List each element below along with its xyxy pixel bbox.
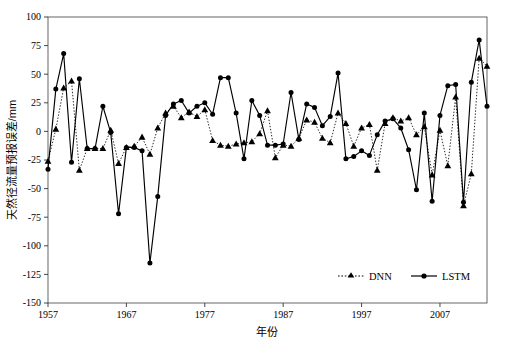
data-point-marker-circle — [320, 123, 325, 128]
y-tick-label: -125 — [23, 269, 41, 280]
data-point-marker-circle — [328, 114, 333, 119]
data-point-marker-circle — [406, 147, 411, 152]
data-point-marker-circle — [289, 90, 294, 95]
y-tick-label: 100 — [26, 11, 41, 22]
data-point-marker-circle — [437, 113, 442, 118]
data-point-marker-circle — [422, 111, 427, 116]
data-point-marker-circle — [383, 119, 388, 124]
data-point-marker-circle — [477, 37, 482, 42]
x-tick-label: 1957 — [38, 309, 58, 320]
data-point-marker-circle — [398, 125, 403, 130]
y-tick-label: -75 — [28, 212, 41, 223]
data-point-marker-circle — [85, 146, 90, 151]
data-point-marker-circle — [100, 104, 105, 109]
legend-label-dnn: DNN — [369, 271, 392, 282]
x-tick-label: 1987 — [273, 309, 293, 320]
data-point-marker-circle — [116, 211, 121, 216]
data-point-marker-circle — [312, 105, 317, 110]
data-point-marker-circle — [469, 80, 474, 85]
data-point-marker-circle — [163, 113, 168, 118]
y-tick-label: -150 — [23, 297, 41, 308]
chart-figure: 1007550250-25-50-75-100-125-150 19571967… — [0, 0, 510, 345]
data-point-marker-circle — [210, 112, 215, 117]
x-axis-title: 年份 — [256, 325, 278, 338]
data-point-marker-circle — [132, 145, 137, 150]
data-point-marker-circle — [124, 145, 129, 150]
data-point-marker-circle — [359, 148, 364, 153]
data-point-marker-circle — [93, 146, 98, 151]
data-point-marker-circle — [257, 113, 262, 118]
y-tick-label: -25 — [28, 154, 41, 165]
data-point-marker-circle — [53, 87, 58, 92]
data-point-marker-circle — [343, 156, 348, 161]
data-point-marker-circle — [61, 51, 66, 56]
data-point-marker-circle — [46, 167, 51, 172]
data-point-marker-circle — [265, 143, 270, 148]
data-point-marker-circle — [367, 153, 372, 158]
y-tick-label: 0 — [36, 126, 41, 137]
data-point-marker-circle — [430, 199, 435, 204]
data-point-marker-circle — [69, 160, 74, 165]
data-point-marker-circle — [77, 76, 82, 81]
data-point-marker-circle — [241, 156, 246, 161]
data-point-marker-circle — [226, 75, 231, 80]
y-tick-label: 75 — [31, 40, 41, 51]
y-tick-label: -50 — [28, 183, 41, 194]
data-point-marker-circle — [453, 82, 458, 87]
data-point-marker-circle — [187, 111, 192, 116]
data-point-marker-circle — [281, 141, 286, 146]
data-point-marker-circle — [296, 137, 301, 142]
data-point-marker-circle — [375, 132, 380, 137]
legend-marker-circle-icon — [421, 273, 426, 278]
y-tick-label: 50 — [31, 69, 41, 80]
data-point-marker-circle — [445, 83, 450, 88]
y-tick-label: -100 — [23, 240, 41, 251]
legend-label-lstm: LSTM — [442, 271, 471, 282]
data-point-marker-circle — [304, 101, 309, 106]
data-point-marker-circle — [336, 71, 341, 76]
y-tick-label: 25 — [31, 97, 41, 108]
data-point-marker-circle — [218, 75, 223, 80]
x-tick-label: 1977 — [195, 309, 215, 320]
data-point-marker-circle — [140, 148, 145, 153]
y-axis-title: 天然径流量预报误差/mm — [5, 100, 18, 220]
data-point-marker-circle — [273, 143, 278, 148]
data-point-marker-circle — [155, 194, 160, 199]
x-tick-label: 1967 — [116, 309, 136, 320]
data-point-marker-circle — [194, 104, 199, 109]
data-point-marker-circle — [390, 116, 395, 121]
data-point-marker-circle — [171, 101, 176, 106]
x-tick-label: 1997 — [352, 309, 372, 320]
data-point-marker-circle — [108, 130, 113, 135]
data-point-marker-circle — [202, 100, 207, 105]
data-point-marker-circle — [249, 98, 254, 103]
x-tick-label: 2007 — [430, 309, 450, 320]
data-point-marker-circle — [351, 154, 356, 159]
data-point-marker-circle — [414, 187, 419, 192]
data-point-marker-circle — [234, 111, 239, 116]
data-point-marker-circle — [485, 104, 490, 109]
data-point-marker-circle — [461, 200, 466, 205]
data-point-marker-circle — [179, 98, 184, 103]
data-point-marker-circle — [147, 260, 152, 265]
